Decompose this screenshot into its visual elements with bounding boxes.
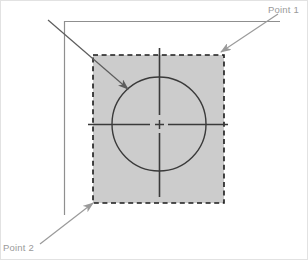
point2-label: Point 2 (3, 242, 34, 253)
point1-label: Point 1 (268, 4, 299, 15)
diagram-root: Point 1 Point 2 (0, 0, 308, 260)
point-location-diagram: Point 1 Point 2 (0, 0, 308, 260)
